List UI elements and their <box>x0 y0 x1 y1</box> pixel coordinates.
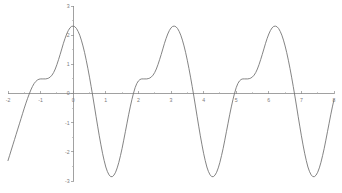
y-tick-label: -3 <box>65 178 70 184</box>
function-plot: -2-1012345678 -3-2-10123 <box>0 0 342 193</box>
x-tick-label: 2 <box>137 97 140 103</box>
y-tick-label: 1 <box>67 61 70 67</box>
x-tick-label: -1 <box>38 97 43 103</box>
x-tick-label: 4 <box>202 97 205 103</box>
chart-container: -2-1012345678 -3-2-10123 <box>0 0 342 193</box>
x-tick-label: 6 <box>267 97 270 103</box>
y-tick-label: -2 <box>65 149 70 155</box>
x-tick-label: -2 <box>6 97 11 103</box>
x-tick-label: 0 <box>72 97 75 103</box>
x-tick-label: 1 <box>104 97 107 103</box>
y-tick-label: 3 <box>67 3 70 9</box>
x-tick-label: 5 <box>235 97 238 103</box>
y-tick-label: 0 <box>67 90 70 96</box>
y-tick-label: -1 <box>65 120 70 126</box>
x-tick-label: 7 <box>300 97 303 103</box>
x-tick-label: 3 <box>170 97 173 103</box>
x-axis-tick-labels: -2-1012345678 <box>6 97 336 103</box>
